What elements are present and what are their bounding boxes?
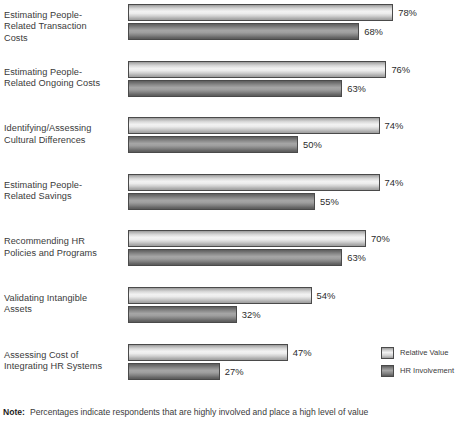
category-label-line: Assets [4, 304, 122, 315]
legend-label-relative-value: Relative Value [400, 346, 448, 359]
bar-pair: 74%55% [128, 172, 463, 216]
bar-value-label: 63% [347, 250, 366, 265]
category-label: Estimating People-Related Savings [4, 180, 122, 203]
bar-value-label: 54% [317, 288, 336, 303]
bar-relative-value [128, 61, 386, 78]
bar-value-label: 70% [371, 231, 390, 246]
category-label-line: Related Ongoing Costs [4, 78, 122, 89]
bar-hr-involvement [128, 23, 359, 40]
bar-value-label: 76% [391, 62, 410, 77]
bar-value-label: 27% [225, 364, 244, 379]
bar-group: Estimating People-Related Ongoing Costs7… [0, 59, 463, 103]
bar-group: Recommending HRPolicies and Programs70%6… [0, 228, 463, 272]
category-label: Assessing Cost ofIntegrating HR Systems [4, 350, 122, 373]
bar-pair: 70%63% [128, 228, 463, 272]
legend-item-hr-involvement: HR Involvement [381, 363, 463, 381]
category-label-line: Estimating People- [4, 180, 122, 191]
bar-pair: 54%32% [128, 285, 463, 329]
bar-pair: 74%50% [128, 115, 463, 159]
category-label: Estimating People-Related Ongoing Costs [4, 67, 122, 90]
bar-value-label: 32% [242, 307, 261, 322]
category-label: Identifying/AssessingCultural Difference… [4, 123, 122, 146]
bar-relative-value [128, 230, 366, 247]
category-label-line: Related Savings [4, 191, 122, 202]
category-label-line: Estimating People- [4, 10, 122, 21]
bar-chart: Estimating People-Related TransactionCos… [0, 0, 463, 396]
chart-note: Note:Percentages indicate respondents th… [3, 406, 461, 418]
bar-value-label: 78% [398, 5, 417, 20]
bar-relative-value [128, 117, 380, 134]
bar-hr-involvement [128, 80, 342, 97]
legend-swatch-hr-involvement [381, 365, 394, 377]
bar-group: Estimating People-Related Savings74%55% [0, 172, 463, 216]
category-label-line: Estimating People- [4, 67, 122, 78]
category-label-line: Identifying/Assessing [4, 123, 122, 134]
bar-value-label: 74% [385, 175, 404, 190]
legend-swatch-relative-value [381, 347, 394, 359]
bar-hr-involvement [128, 306, 237, 323]
legend-item-relative-value: Relative Value [381, 345, 463, 363]
bar-value-label: 63% [347, 81, 366, 96]
note-label: Note: [3, 407, 25, 417]
note-text: Percentages indicate respondents that ar… [30, 407, 368, 417]
bar-hr-involvement [128, 193, 315, 210]
bar-value-label: 55% [320, 194, 339, 209]
bar-relative-value [128, 4, 393, 21]
category-label: Recommending HRPolicies and Programs [4, 236, 122, 259]
category-label-line: Cultural Differences [4, 135, 122, 146]
bar-hr-involvement [128, 363, 220, 380]
category-label-line: Related Transaction [4, 21, 122, 32]
category-label-line: Validating Intangible [4, 293, 122, 304]
legend-label-hr-involvement: HR Involvement [400, 364, 454, 377]
bar-pair: 76%63% [128, 59, 463, 103]
category-label-line: Policies and Programs [4, 248, 122, 259]
bar-group: Validating IntangibleAssets54%32% [0, 285, 463, 329]
bar-relative-value [128, 344, 288, 361]
category-label: Validating IntangibleAssets [4, 293, 122, 316]
bar-relative-value [128, 287, 312, 304]
chart-legend: Relative Value HR Involvement [381, 345, 463, 381]
bar-pair: 78%68% [128, 2, 463, 46]
bar-hr-involvement [128, 249, 342, 266]
bar-value-label: 68% [364, 24, 383, 39]
bar-hr-involvement [128, 136, 298, 153]
bar-relative-value [128, 174, 380, 191]
category-label-line: Costs [4, 33, 122, 44]
bar-value-label: 47% [293, 345, 312, 360]
bar-group: Estimating People-Related TransactionCos… [0, 2, 463, 46]
bar-value-label: 74% [385, 118, 404, 133]
category-label-line: Recommending HR [4, 236, 122, 247]
category-label: Estimating People-Related TransactionCos… [4, 10, 122, 44]
category-label-line: Assessing Cost of [4, 350, 122, 361]
category-label-line: Integrating HR Systems [4, 361, 122, 372]
bar-value-label: 50% [303, 137, 322, 152]
bar-group: Identifying/AssessingCultural Difference… [0, 115, 463, 159]
